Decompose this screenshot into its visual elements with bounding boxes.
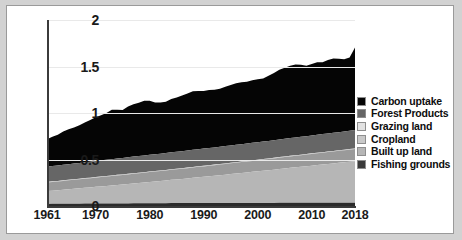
x-tick-label: 1961: [22, 209, 72, 222]
legend-item-label: Forest Products: [371, 108, 449, 119]
legend-swatch-icon: [357, 122, 366, 131]
legend-swatch-icon: [357, 147, 366, 156]
legend-swatch-icon: [357, 160, 366, 169]
y-axis-line: [47, 20, 49, 207]
x-tick-label: 1970: [71, 209, 121, 222]
legend-item-forest-products[interactable]: Forest Products: [357, 108, 462, 121]
legend-item-label: Built up land: [371, 146, 432, 157]
legend-item-carbon-uptake[interactable]: Carbon uptake: [357, 95, 462, 108]
legend-item-grazing-land[interactable]: Grazing land: [357, 120, 462, 133]
legend-item-label: Carbon uptake: [371, 96, 442, 107]
x-tick-label: 1980: [125, 209, 175, 222]
x-tick-label: 2018: [330, 209, 380, 222]
y-tick-label: 1.5: [80, 60, 99, 74]
x-tick-label: 1990: [179, 209, 229, 222]
legend-item-label: Fishing grounds: [371, 159, 450, 170]
legend-item-built-up-land[interactable]: Built up land: [357, 145, 462, 158]
chart-figure: 00.511.52 1961197019801990200020102018 C…: [6, 5, 454, 234]
legend-swatch-icon: [357, 135, 366, 144]
legend-item-cropland[interactable]: Cropland: [357, 133, 462, 146]
y-tick-label: 2: [92, 13, 100, 27]
legend-swatch-icon: [357, 97, 366, 106]
legend-item-fishing-grounds[interactable]: Fishing grounds: [357, 158, 462, 171]
y-tick-label: 0.5: [80, 153, 99, 167]
chart-legend: Carbon uptakeForest ProductsGrazing land…: [357, 95, 462, 171]
y-tick-label: 1: [92, 106, 100, 120]
legend-item-label: Cropland: [371, 134, 415, 145]
legend-item-label: Grazing land: [371, 121, 432, 132]
x-tick-label: 2000: [233, 209, 283, 222]
legend-swatch-icon: [357, 109, 366, 118]
